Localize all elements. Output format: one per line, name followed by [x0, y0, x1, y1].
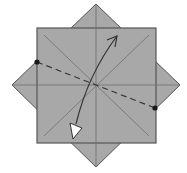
reference-dot-right [152, 105, 157, 110]
reference-dot-left [34, 59, 39, 64]
origami-diagram [0, 0, 187, 173]
